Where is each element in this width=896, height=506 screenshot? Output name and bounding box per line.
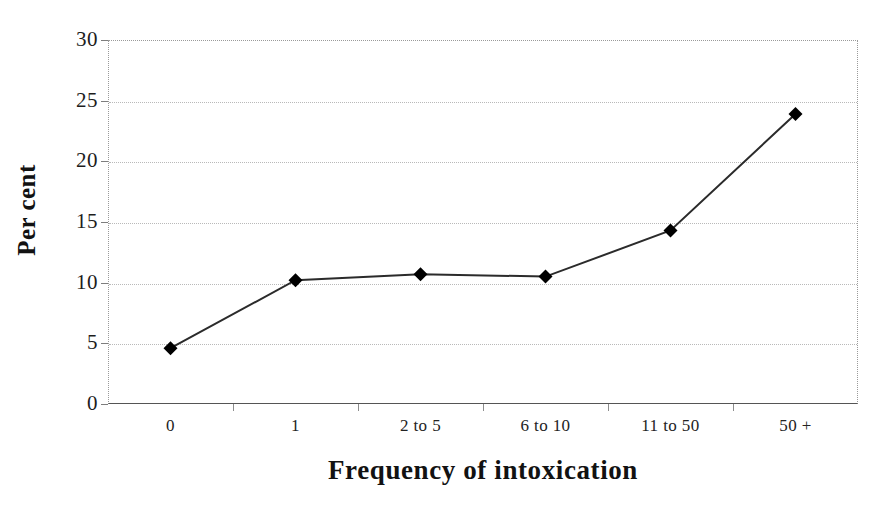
x-axis-tick-label: 1 xyxy=(233,414,358,444)
y-axis-tick-mark xyxy=(101,343,108,344)
x-axis-tick-mark xyxy=(608,404,609,411)
x-axis-tick-mark xyxy=(733,404,734,411)
y-axis-tick-mark xyxy=(101,161,108,162)
x-axis-tick-marks xyxy=(108,404,858,412)
x-axis-tick-mark xyxy=(233,404,234,411)
y-axis-tick-label: 10 xyxy=(58,272,98,293)
y-axis-tick-label: 0 xyxy=(58,393,98,414)
data-point-marker xyxy=(289,273,303,287)
y-axis-tick-mark xyxy=(101,101,108,102)
x-axis-tick-label: 50 + xyxy=(733,414,858,444)
y-axis-tick-label: 20 xyxy=(58,150,98,171)
y-axis-tick-mark xyxy=(101,404,108,405)
x-axis-tick-label: 6 to 10 xyxy=(483,414,608,444)
x-axis-tick-mark xyxy=(358,404,359,411)
series-line xyxy=(171,114,796,348)
x-axis-tick-label: 2 to 5 xyxy=(358,414,483,444)
x-axis-tick-label: 0 xyxy=(108,414,233,444)
line-series-layer xyxy=(108,40,858,404)
y-axis-tick-label: 5 xyxy=(58,332,98,353)
y-axis-tick-label: 15 xyxy=(58,211,98,232)
y-axis-tick-label: 25 xyxy=(58,90,98,111)
y-axis-tick-mark xyxy=(101,40,108,41)
y-axis-tick-mark xyxy=(101,283,108,284)
x-axis-tick-labels: 012 to 56 to 1011 to 5050 + xyxy=(108,414,858,444)
x-axis-title: Frequency of intoxication xyxy=(108,455,858,486)
x-axis-tick-label: 11 to 50 xyxy=(608,414,733,444)
data-point-marker xyxy=(164,341,178,355)
y-axis-title: Per cent xyxy=(13,120,41,300)
chart-page: 051015202530 012 to 56 to 1011 to 5050 +… xyxy=(0,0,896,506)
x-axis-tick-mark xyxy=(483,404,484,411)
y-axis-tick-label: 30 xyxy=(58,29,98,50)
y-axis-tick-labels: 051015202530 xyxy=(50,40,98,404)
data-point-marker xyxy=(414,267,428,281)
data-point-marker xyxy=(539,270,553,284)
y-axis-tick-mark xyxy=(101,222,108,223)
